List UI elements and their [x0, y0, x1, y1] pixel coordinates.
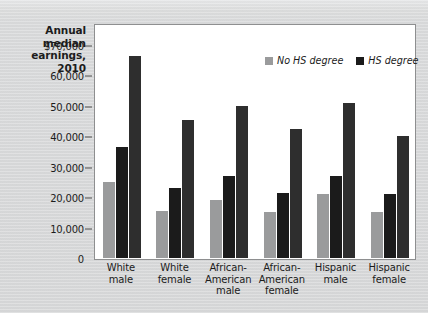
bar-group: [149, 23, 203, 258]
bar[interactable]: [169, 188, 181, 258]
bar[interactable]: [371, 212, 383, 258]
y-axis-tick-mark: [85, 137, 92, 138]
y-axis-tick-mark: [85, 228, 92, 229]
bar[interactable]: [236, 106, 248, 258]
x-axis-label-line: African-: [255, 262, 309, 274]
x-axis-label-line: Hispanic: [362, 262, 416, 274]
x-axis-tick-label: Whitefemale: [148, 262, 202, 285]
x-axis-label-line: African-: [201, 262, 255, 274]
bar[interactable]: [290, 129, 302, 258]
legend-item[interactable]: No HS degree: [265, 55, 343, 66]
x-axis-tick-label: Hispanicfemale: [362, 262, 416, 285]
x-axis-label-line: American: [201, 274, 255, 286]
bar[interactable]: [116, 147, 128, 258]
y-axis-tick-label: 60,000: [50, 71, 84, 82]
bar[interactable]: [182, 120, 194, 258]
bar-group: [202, 23, 256, 258]
bar[interactable]: [129, 56, 141, 258]
bar[interactable]: [103, 182, 115, 258]
legend-swatch-icon: [265, 57, 273, 65]
x-axis-label-line: American: [255, 274, 309, 286]
x-axis-tick-label: African-Americanfemale: [255, 262, 309, 297]
bar[interactable]: [330, 176, 342, 258]
bar-group: [95, 23, 149, 258]
y-axis-tick-label: 20,000: [50, 193, 84, 204]
x-axis: WhitemaleWhitefemaleAfrican-Americanmale…: [94, 262, 416, 312]
legend-label: No HS degree: [277, 55, 343, 66]
bar[interactable]: [210, 200, 222, 258]
y-axis-tick-mark: [85, 198, 92, 199]
x-axis-label-line: female: [255, 285, 309, 297]
x-axis-label-line: White: [148, 262, 202, 274]
x-axis-label-line: female: [148, 274, 202, 286]
chart-legend: No HS degreeHS degreeCollege degree: [265, 55, 428, 66]
y-axis-tick-label: 10,000: [50, 223, 84, 234]
bar[interactable]: [397, 136, 409, 258]
x-axis-label-line: Hispanic: [309, 262, 363, 274]
y-axis: $70,00060,00050,00040,00030,00020,00010,…: [30, 24, 92, 260]
y-axis-tick-mark: [85, 167, 92, 168]
bar[interactable]: [277, 193, 289, 258]
bar[interactable]: [156, 211, 168, 258]
y-axis-tick-label: 30,000: [50, 162, 84, 173]
x-axis-label-line: male: [201, 285, 255, 297]
y-axis-tick-mark: [85, 46, 92, 47]
x-axis-label-line: male: [309, 274, 363, 286]
x-axis-tick-label: African-Americanmale: [201, 262, 255, 297]
y-axis-tick-label: 40,000: [50, 132, 84, 143]
bar[interactable]: [343, 103, 355, 258]
x-axis-label-line: male: [94, 274, 148, 286]
legend-swatch-icon: [356, 57, 364, 65]
y-axis-tick-label: 0: [78, 254, 84, 265]
bar[interactable]: [264, 212, 276, 258]
x-axis-tick-label: Whitemale: [94, 262, 148, 285]
plot-frame: No HS degreeHS degreeCollege degree: [94, 24, 416, 260]
y-axis-tick-label: $70,000: [44, 41, 84, 52]
bar[interactable]: [223, 176, 235, 258]
y-axis-tick-mark: [85, 76, 92, 77]
x-axis-label-line: White: [94, 262, 148, 274]
y-axis-tick-label: 50,000: [50, 101, 84, 112]
legend-label: HS degree: [368, 55, 418, 66]
x-axis-label-line: female: [362, 274, 416, 286]
y-axis-tick-mark: [85, 106, 92, 107]
legend-item[interactable]: HS degree: [356, 55, 418, 66]
bar[interactable]: [384, 194, 396, 258]
bar[interactable]: [317, 194, 329, 258]
x-axis-tick-label: Hispanicmale: [309, 262, 363, 285]
